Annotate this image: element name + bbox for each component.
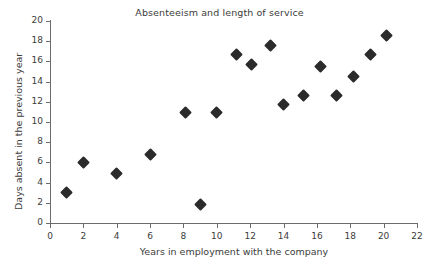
x-axis-tick xyxy=(183,224,184,228)
data-point xyxy=(210,107,223,120)
data-point xyxy=(277,98,290,111)
data-point xyxy=(297,89,310,102)
x-axis-tick xyxy=(284,224,285,228)
scatter-chart: Absenteeism and length of service Years … xyxy=(0,0,439,269)
x-axis-tick xyxy=(417,224,418,228)
y-axis-tick-label: 16 xyxy=(23,55,43,65)
x-axis-tick-label: 6 xyxy=(138,231,162,241)
y-axis-tick xyxy=(46,61,50,62)
data-point xyxy=(364,48,377,61)
data-point xyxy=(230,48,243,61)
y-axis-tick xyxy=(46,162,50,163)
x-axis-tick-label: 16 xyxy=(305,231,329,241)
y-axis-tick-label: 2 xyxy=(23,197,43,207)
y-axis-tick xyxy=(46,102,50,103)
data-point xyxy=(194,198,207,211)
y-axis-tick xyxy=(46,21,50,22)
data-point xyxy=(77,156,90,169)
x-axis-tick xyxy=(83,224,84,228)
data-point xyxy=(144,148,157,161)
y-axis-tick-label: 4 xyxy=(23,177,43,187)
x-axis-tick-label: 12 xyxy=(238,231,262,241)
x-axis-tick xyxy=(250,224,251,228)
data-point xyxy=(60,186,73,199)
x-axis-tick xyxy=(117,224,118,228)
data-point xyxy=(245,58,258,71)
y-axis-tick-label: 14 xyxy=(23,76,43,86)
x-axis-tick-label: 18 xyxy=(338,231,362,241)
y-axis-tick-label: 20 xyxy=(23,15,43,25)
y-axis-tick-label: 6 xyxy=(23,156,43,166)
y-axis-tick-label: 12 xyxy=(23,96,43,106)
y-axis-line xyxy=(50,20,51,224)
data-point xyxy=(179,107,192,120)
y-axis-tick-label: 8 xyxy=(23,136,43,146)
x-axis-tick-label: 14 xyxy=(272,231,296,241)
x-axis-tick-label: 0 xyxy=(38,231,62,241)
y-axis-tick xyxy=(46,122,50,123)
x-axis-tick xyxy=(384,224,385,228)
x-axis-tick xyxy=(350,224,351,228)
x-axis-tick xyxy=(317,224,318,228)
y-axis-tick xyxy=(46,41,50,42)
y-axis-tick xyxy=(46,223,50,224)
x-axis-tick-label: 2 xyxy=(71,231,95,241)
x-axis-tick xyxy=(150,224,151,228)
data-point xyxy=(110,167,123,180)
y-axis-tick xyxy=(46,203,50,204)
data-point xyxy=(314,60,327,73)
plot-area xyxy=(0,0,439,269)
x-axis-tick-label: 4 xyxy=(105,231,129,241)
x-axis-tick-label: 10 xyxy=(205,231,229,241)
x-axis-line xyxy=(50,223,418,224)
y-axis-tick-label: 0 xyxy=(23,217,43,227)
y-axis-tick xyxy=(46,183,50,184)
x-axis-tick-label: 8 xyxy=(171,231,195,241)
x-axis-tick-label: 22 xyxy=(405,231,429,241)
x-axis-tick xyxy=(50,224,51,228)
x-axis-tick xyxy=(217,224,218,228)
data-point xyxy=(381,29,394,42)
data-point xyxy=(331,89,344,102)
x-axis-tick-label: 20 xyxy=(372,231,396,241)
x-axis-title: Years in employment with the company xyxy=(50,246,418,257)
y-axis-tick-label: 10 xyxy=(23,116,43,126)
y-axis-tick-label: 18 xyxy=(23,35,43,45)
data-point xyxy=(264,39,277,52)
y-axis-tick xyxy=(46,82,50,83)
y-axis-tick xyxy=(46,142,50,143)
data-point xyxy=(347,70,360,83)
